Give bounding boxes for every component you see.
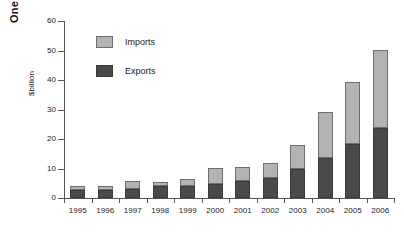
y-tick-label-0: 0 <box>52 194 56 202</box>
bar-group-2005 <box>345 21 360 198</box>
x-tick-12 <box>394 198 395 203</box>
x-tick-label-1997: 1997 <box>119 206 147 215</box>
x-tick-label-2003: 2003 <box>284 206 312 215</box>
bar-segment-exports-2001 <box>235 181 250 198</box>
bar-segment-exports-1996 <box>98 190 113 198</box>
bar-segment-exports-1998 <box>153 186 168 198</box>
bar-segment-imports-2005 <box>345 82 360 144</box>
bar-segment-imports-2003 <box>290 145 305 169</box>
bar-segment-imports-1995 <box>70 186 85 190</box>
bar-group-1995 <box>70 21 85 198</box>
bar-group-2003 <box>290 21 305 198</box>
bar-segment-imports-1997 <box>125 181 140 188</box>
y-tick-50 <box>58 51 64 52</box>
bar-group-2001 <box>235 21 250 198</box>
bar-group-2006 <box>373 21 388 198</box>
y-tick-label-50: 50 <box>47 47 56 55</box>
x-tick-10 <box>339 198 340 203</box>
bar-segment-exports-2002 <box>263 178 278 198</box>
x-tick-2 <box>119 198 120 203</box>
x-tick-label-1999: 1999 <box>174 206 202 215</box>
y-tick-label-30: 30 <box>47 106 56 114</box>
x-tick-label-2004: 2004 <box>312 206 340 215</box>
bar-segment-imports-2001 <box>235 167 250 181</box>
x-tick-label-2006: 2006 <box>367 206 395 215</box>
bar-segment-imports-2004 <box>318 112 333 158</box>
bar-segment-imports-1996 <box>98 186 113 190</box>
y-tick-10 <box>58 169 64 170</box>
x-tick-label-2002: 2002 <box>257 206 285 215</box>
x-tick-5 <box>202 198 203 203</box>
legend-label-exports: Exports <box>125 67 156 76</box>
y-tick-label-20: 20 <box>47 135 56 143</box>
x-tick-label-2005: 2005 <box>339 206 367 215</box>
bar-segment-exports-2005 <box>345 144 360 198</box>
bar-group-2000 <box>208 21 223 198</box>
bar-segment-imports-2002 <box>263 163 278 179</box>
x-tick-9 <box>312 198 313 203</box>
bar-segment-imports-1998 <box>153 182 168 186</box>
bar-segment-imports-2000 <box>208 168 223 184</box>
x-tick-8 <box>284 198 285 203</box>
bar-group-2004 <box>318 21 333 198</box>
bar-segment-imports-2006 <box>373 50 388 128</box>
x-tick-label-2000: 2000 <box>202 206 230 215</box>
x-tick-4 <box>174 198 175 203</box>
legend-label-imports: Imports <box>125 38 155 47</box>
y-tick-60 <box>58 21 64 22</box>
x-tick-3 <box>147 198 148 203</box>
bar-segment-imports-1999 <box>180 179 195 186</box>
legend-item-imports[interactable]: Imports <box>96 36 155 48</box>
y-tick-label-40: 40 <box>47 76 56 84</box>
x-tick-11 <box>367 198 368 203</box>
bar-group-2002 <box>263 21 278 198</box>
y-tick-20 <box>58 139 64 140</box>
y-axis-line <box>64 21 65 199</box>
x-tick-6 <box>229 198 230 203</box>
y-tick-40 <box>58 80 64 81</box>
x-tick-label-1996: 1996 <box>92 206 120 215</box>
y-tick-label-60: 60 <box>47 17 56 25</box>
stacked-bar-chart: $billion 0102030405060 19951996199719981… <box>0 0 404 234</box>
bar-group-1999 <box>180 21 195 198</box>
y-axis-title: $billion <box>27 71 36 96</box>
bar-segment-exports-2006 <box>373 128 388 198</box>
x-tick-1 <box>92 198 93 203</box>
bar-segment-exports-2000 <box>208 184 223 198</box>
y-tick-30 <box>58 110 64 111</box>
legend-swatch-imports <box>96 36 113 48</box>
legend-item-exports[interactable]: Exports <box>96 65 156 77</box>
bar-segment-exports-1995 <box>70 190 85 198</box>
bar-segment-exports-1999 <box>180 186 195 198</box>
bar-segment-exports-2004 <box>318 158 333 198</box>
x-tick-label-2001: 2001 <box>229 206 257 215</box>
bar-segment-exports-1997 <box>125 189 140 198</box>
x-tick-0 <box>64 198 65 203</box>
x-tick-label-1998: 1998 <box>147 206 175 215</box>
bar-segment-exports-2003 <box>290 169 305 198</box>
legend-swatch-exports <box>96 65 113 77</box>
x-tick-7 <box>257 198 258 203</box>
y-tick-label-10: 10 <box>47 165 56 173</box>
x-tick-label-1995: 1995 <box>64 206 92 215</box>
